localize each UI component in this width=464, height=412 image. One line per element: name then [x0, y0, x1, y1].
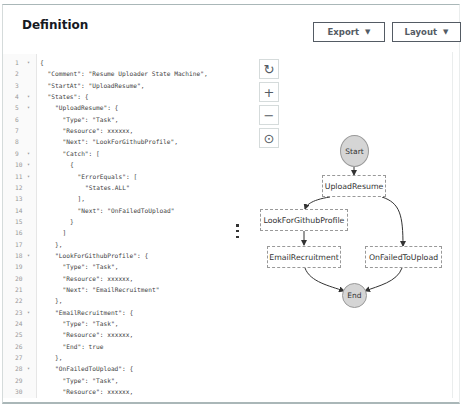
code-line[interactable]: 2"Comment": "Resume Uploader State Machi… [3, 68, 225, 79]
line-number[interactable]: 28 [15, 363, 35, 374]
fold-toggle-icon[interactable]: ▾ [27, 57, 30, 68]
code-line[interactable]: 9▾"Catch": [ [3, 148, 225, 159]
fold-toggle-icon[interactable]: ▾ [27, 148, 30, 159]
fold-toggle-icon[interactable]: ▾ [27, 91, 30, 102]
code-text: }, [55, 295, 62, 306]
code-line[interactable]: 8"Next": "LookForGithubProfile", [3, 136, 225, 147]
code-text: "ErrorEquals": [ [78, 171, 138, 182]
code-line[interactable]: 28▾"OnFailedToUpload": { [3, 363, 225, 374]
code-line[interactable]: 23▾"EmailRecruitment": { [3, 307, 225, 318]
export-label: Export [328, 27, 359, 37]
line-number: 6 [15, 114, 35, 125]
line-number[interactable]: 1 [15, 57, 35, 68]
zoom-out-icon[interactable]: − [259, 105, 279, 125]
layout-label: Layout [405, 27, 437, 37]
line-number: 15 [15, 216, 35, 227]
fold-toggle-icon[interactable]: ▾ [27, 159, 30, 170]
code-text: { [70, 159, 74, 170]
line-number: 7 [15, 125, 35, 136]
line-number[interactable]: 5 [15, 102, 35, 113]
code-text: ] [63, 227, 67, 238]
line-number: 14 [15, 205, 35, 216]
code-text: }, [55, 352, 62, 363]
line-number: 3 [15, 80, 35, 91]
center-icon[interactable]: ⊙ [259, 128, 279, 148]
state-email-recruitment[interactable]: EmailRecruitment [267, 246, 341, 268]
export-button[interactable]: Export ▼ [313, 22, 385, 42]
code-line[interactable]: 10▾{ [3, 159, 225, 170]
code-text: "StartAt": "UploadResume", [48, 80, 145, 91]
line-number: 2 [15, 68, 35, 79]
code-line[interactable]: 13], [3, 193, 225, 204]
code-text: ], [78, 193, 85, 204]
code-line[interactable]: 7"Resource": xxxxxx, [3, 125, 225, 136]
code-line[interactable]: 15} [3, 216, 225, 227]
state-upload-resume[interactable]: UploadResume [322, 175, 386, 197]
code-line[interactable]: 18▾"LookForGithubProfile": { [3, 250, 225, 261]
code-text: } [70, 216, 74, 227]
code-line[interactable]: 1▾{ [3, 57, 225, 68]
code-line[interactable]: 14"Next": "OnFailedToUpload" [3, 205, 225, 216]
line-number[interactable]: 4 [15, 91, 35, 102]
fold-toggle-icon[interactable]: ▾ [27, 102, 30, 113]
resize-handle[interactable] [236, 224, 239, 238]
code-text: "EmailRecruitment": { [55, 307, 133, 318]
code-line[interactable]: 22}, [3, 295, 225, 306]
code-text: "States": { [48, 91, 89, 102]
code-text: "Resource": xxxxxx, [63, 273, 134, 284]
code-line[interactable]: 19"Type": "Task", [3, 261, 225, 272]
reset-icon[interactable]: ↻ [259, 59, 279, 79]
code-line[interactable]: 17}, [3, 239, 225, 250]
line-number[interactable]: 9 [15, 148, 35, 159]
line-number: 29 [15, 375, 35, 386]
code-text: "Next": "LookForGithubProfile", [63, 136, 178, 147]
code-line[interactable]: 4▾"States": { [3, 91, 225, 102]
zoom-in-icon[interactable]: + [259, 82, 279, 102]
state-look-for-github-profile[interactable]: LookForGithubProfile [260, 209, 348, 231]
line-number: 20 [15, 273, 35, 284]
code-line[interactable]: 30"Resource": xxxxxx, [3, 386, 225, 397]
code-line[interactable]: 24"Type": "Task", [3, 318, 225, 329]
line-number: 19 [15, 261, 35, 272]
line-number: 8 [15, 136, 35, 147]
code-text: "States.ALL" [85, 182, 130, 193]
code-text: "Type": "Task", [63, 318, 119, 329]
start-node[interactable]: Start [340, 135, 369, 167]
line-number: 24 [15, 318, 35, 329]
line-number: 22 [15, 295, 35, 306]
code-line[interactable]: 3"StartAt": "UploadResume", [3, 80, 225, 91]
code-line[interactable]: 5▾"UploadResume": { [3, 102, 225, 113]
code-text: "Comment": "Resume Uploader State Machin… [48, 68, 208, 79]
state-on-failed-to-upload[interactable]: OnFailedToUpload [365, 246, 442, 268]
code-line[interactable]: 12"States.ALL" [3, 182, 225, 193]
code-line[interactable]: 6"Type": "Task", [3, 114, 225, 125]
code-line[interactable]: 29"Type": "Task", [3, 375, 225, 386]
line-number[interactable]: 23 [15, 307, 35, 318]
code-line[interactable]: 20"Resource": xxxxxx, [3, 273, 225, 284]
layout-button[interactable]: Layout ▼ [392, 22, 461, 42]
code-text: "UploadResume": { [55, 102, 118, 113]
code-line[interactable]: 25"Resource": xxxxxx, [3, 329, 225, 340]
fold-toggle-icon[interactable]: ▾ [27, 363, 30, 374]
line-number: 30 [15, 386, 35, 397]
line-number[interactable]: 11 [15, 171, 35, 182]
fold-toggle-icon[interactable]: ▾ [27, 307, 30, 318]
end-node[interactable]: End [342, 283, 367, 308]
fold-toggle-icon[interactable]: ▾ [27, 250, 30, 261]
code-line[interactable]: 26"End": true [3, 341, 225, 352]
code-text: "Type": "Task", [63, 375, 119, 386]
code-text: "OnFailedToUpload": { [55, 363, 133, 374]
line-number: 26 [15, 341, 35, 352]
code-text: "Resource": xxxxxx, [63, 386, 134, 397]
code-line[interactable]: 11▾"ErrorEquals": [ [3, 171, 225, 182]
divider [452, 52, 453, 398]
code-text: "End": true [63, 341, 104, 352]
code-line[interactable]: 21"Next": "EmailRecruitment" [3, 284, 225, 295]
code-editor[interactable]: 1▾{2"Comment": "Resume Uploader State Ma… [3, 54, 225, 398]
code-line[interactable]: 16] [3, 227, 225, 238]
line-number[interactable]: 10 [15, 159, 35, 170]
fold-toggle-icon[interactable]: ▾ [27, 171, 30, 182]
line-number: 12 [15, 182, 35, 193]
code-line[interactable]: 27}, [3, 352, 225, 363]
line-number[interactable]: 18 [15, 250, 35, 261]
